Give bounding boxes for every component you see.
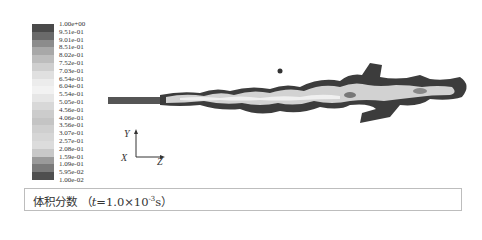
colorbar-swatch: [32, 172, 54, 180]
colorbar-label: 1.00e-02: [59, 177, 85, 185]
colorbar-swatch: [32, 164, 54, 172]
colorbar-labels: 1.00e+009.51e-019.01e-018.51e-018.02e-01…: [59, 21, 85, 185]
colorbar-swatch: [32, 71, 54, 79]
colorbar-swatch: [32, 141, 54, 149]
colorbar-swatch: [32, 40, 54, 48]
caption-box: 体积分数 （t=1.0×10-3s）: [24, 188, 462, 211]
colorbar-swatch: [32, 149, 54, 157]
colorbar-swatch: [32, 102, 54, 110]
colorbar-swatch: [32, 63, 54, 71]
colorbar-swatch: [32, 55, 54, 63]
colorbar-swatch: [32, 110, 54, 118]
colorbar-swatch: [32, 94, 54, 102]
colorbar-swatch: [32, 32, 54, 40]
colorbar-swatch: [32, 118, 54, 126]
colorbar-swatch: [32, 125, 54, 133]
colorbar-swatch: [32, 133, 54, 141]
caption-prefix: 体积分数 （: [33, 195, 92, 209]
axis-label-x: X: [121, 152, 127, 163]
caption-unit: s）: [155, 195, 172, 209]
colorbar-swatch: [32, 157, 54, 165]
colorbar-swatch: [32, 24, 54, 32]
axis-label-z: Z: [157, 156, 163, 167]
colorbar-swatch: [32, 47, 54, 55]
colorbar: [32, 24, 54, 180]
axis-label-y: Y: [124, 128, 130, 139]
colorbar-swatch: [32, 79, 54, 87]
caption: 体积分数 （t=1.0×10-3s）: [33, 193, 172, 209]
colorbar-swatch: [32, 86, 54, 94]
caption-value: =1.0×10: [96, 195, 148, 209]
